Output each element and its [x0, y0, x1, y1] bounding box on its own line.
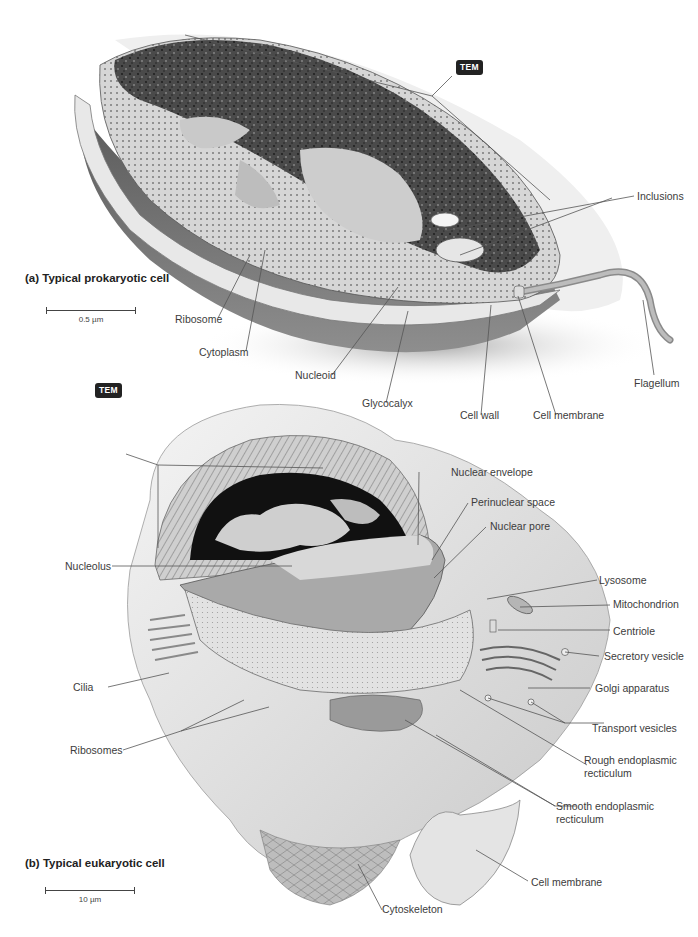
- label-cilia: Cilia: [73, 681, 93, 694]
- label-transport-vesicles: Transport vesicles: [592, 722, 677, 735]
- label-rough-er: Rough endoplasmic recticulum: [584, 754, 677, 780]
- label-golgi-apparatus: Golgi apparatus: [595, 682, 669, 695]
- label-ribosome: Ribosome: [175, 313, 222, 326]
- label-cell-membrane-a: Cell membrane: [533, 409, 604, 422]
- label-flagellum: Flagellum: [634, 377, 680, 390]
- label-nucleolus: Nucleolus: [65, 560, 111, 573]
- label-cytoskeleton: Cytoskeleton: [382, 903, 443, 916]
- tem-badge-b: TEM: [95, 383, 122, 398]
- label-perinuclear-space: Perinuclear space: [471, 496, 555, 509]
- scale-bar-b-label: 10 µm: [45, 895, 135, 904]
- label-rough-er-line1: Rough endoplasmic: [584, 754, 677, 767]
- label-secretory-vesicle: Secretory vesicle: [604, 650, 684, 663]
- label-cytoplasm: Cytoplasm: [199, 346, 249, 359]
- cell-illustrations: [0, 0, 698, 937]
- label-ribosomes: Ribosomes: [70, 744, 123, 757]
- label-nuclear-pore: Nuclear pore: [490, 520, 550, 533]
- panel-b-caption: (b) Typical eukaryotic cell: [25, 857, 165, 869]
- panel-a-caption: (a) Typical prokaryotic cell: [25, 272, 169, 284]
- eukaryotic-cell-drawing: [128, 404, 611, 905]
- label-inclusions: Inclusions: [637, 190, 684, 203]
- label-mitochondrion: Mitochondrion: [613, 598, 679, 611]
- tem-badge-a: TEM: [456, 60, 483, 75]
- label-cell-wall: Cell wall: [460, 409, 499, 422]
- label-lysosome: Lysosome: [599, 574, 646, 587]
- label-glycocalyx: Glycocalyx: [362, 397, 413, 410]
- label-nuclear-envelope: Nuclear envelope: [451, 466, 533, 479]
- scale-bar-a-label: 0.5 µm: [46, 315, 136, 324]
- label-nucleoid: Nucleoid: [295, 369, 336, 382]
- label-cell-membrane-b: Cell membrane: [531, 876, 602, 889]
- label-centriole: Centriole: [613, 625, 655, 638]
- label-smooth-er: Smooth endoplasmic recticulum: [556, 800, 654, 826]
- label-rough-er-line2: recticulum: [584, 767, 677, 780]
- label-smooth-er-line2: recticulum: [556, 813, 654, 826]
- label-smooth-er-line1: Smooth endoplasmic: [556, 800, 654, 813]
